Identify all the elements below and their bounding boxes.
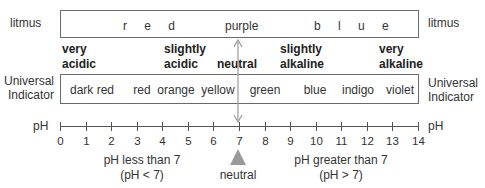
axis-tick <box>418 122 419 131</box>
ui-color-orange: orange <box>157 83 194 97</box>
neutral-arrow-icon <box>232 38 244 124</box>
litmus-left-label: litmus <box>10 16 41 30</box>
universal-indicator-right-label: Universal Indicator <box>428 76 478 104</box>
axis-tick-label: 11 <box>336 135 348 147</box>
axis-tick-label: 1 <box>83 135 89 147</box>
axis-tick-label: 12 <box>361 135 374 147</box>
category-slightly-alkaline: slightly alkaline <box>280 42 324 72</box>
alkaline-range-annotation: pH greater than 7 (pH > 7) <box>294 153 387 183</box>
axis-tick <box>213 122 214 131</box>
ui-color-green: green <box>250 83 281 97</box>
ui-color-indigo: indigo <box>342 83 374 97</box>
category-very-alkaline: very alkaline <box>379 42 423 72</box>
annotation-line: (pH < 7) <box>104 168 181 183</box>
ui-color-red: red <box>133 83 150 97</box>
litmus-color-red: r e d <box>123 19 182 33</box>
ui-color-dark-red: dark red <box>70 83 114 97</box>
litmus-right-label: litmus <box>428 16 459 30</box>
category-very-acidic: very acidic <box>62 42 96 72</box>
axis-tick <box>316 122 317 131</box>
neutral-marker-icon <box>229 148 247 166</box>
axis-tick-label: 3 <box>134 135 140 147</box>
axis-tick-label: 14 <box>412 135 425 147</box>
category-line: alkaline <box>379 57 423 72</box>
axis-tick <box>341 122 342 131</box>
axis-tick <box>239 122 240 131</box>
axis-tick-label: 0 <box>57 135 63 147</box>
axis-tick-label: 13 <box>386 135 399 147</box>
label-line: Indicator <box>2 88 54 102</box>
axis-tick <box>137 122 138 131</box>
category-line: slightly <box>164 42 206 57</box>
axis-left-label: pH <box>33 119 48 133</box>
label-line: Universal <box>428 76 478 90</box>
category-line: alkaline <box>280 57 324 72</box>
axis-tick <box>265 122 266 131</box>
axis-tick-label: 10 <box>310 135 323 147</box>
universal-indicator-left-label: Universal Indicator <box>2 74 54 102</box>
axis-tick <box>290 122 291 131</box>
category-slightly-acidic: slightly acidic <box>164 42 206 72</box>
category-line: acidic <box>164 57 206 72</box>
axis-tick-label: 4 <box>159 135 165 147</box>
axis-tick <box>60 122 61 131</box>
litmus-color-blue: b l u e <box>314 19 396 33</box>
litmus-box: r e d purple b l u e <box>60 10 419 38</box>
axis-tick-label: 9 <box>287 135 293 147</box>
category-line: slightly <box>280 42 324 57</box>
ui-color-blue: blue <box>304 83 327 97</box>
axis-tick-label: 8 <box>262 135 268 147</box>
axis-tick-label: 5 <box>185 135 191 147</box>
axis-tick-label: 2 <box>108 135 114 147</box>
label-line: Indicator <box>428 90 478 104</box>
axis-tick-label: 6 <box>210 135 216 147</box>
axis-tick <box>111 122 112 131</box>
axis-tick-label: 7 <box>236 135 242 147</box>
axis-tick <box>86 122 87 131</box>
axis-tick <box>188 122 189 131</box>
axis-right-label: pH <box>428 119 443 133</box>
axis-tick <box>367 122 368 131</box>
annotation-line: (pH > 7) <box>294 168 387 183</box>
neutral-annotation: neutral <box>220 168 257 183</box>
label-line: Universal <box>2 74 54 88</box>
category-line: acidic <box>62 57 96 72</box>
axis-tick <box>162 122 163 131</box>
annotation-line: pH greater than 7 <box>294 153 387 168</box>
litmus-color-purple: purple <box>225 19 258 33</box>
ui-color-violet: violet <box>386 83 414 97</box>
acid-range-annotation: pH less than 7 (pH < 7) <box>104 153 181 183</box>
axis-tick <box>392 122 393 131</box>
category-line: very <box>379 42 423 57</box>
annotation-line: pH less than 7 <box>104 153 181 168</box>
ui-color-yellow: yellow <box>201 83 234 97</box>
category-line: very <box>62 42 96 57</box>
